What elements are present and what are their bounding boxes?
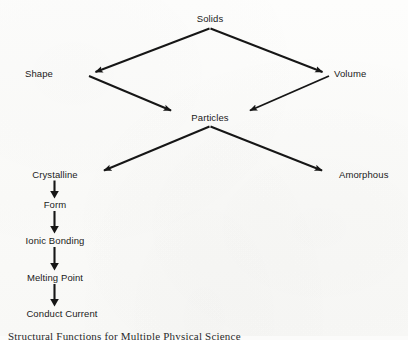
node-form[interactable]: Form (44, 200, 67, 210)
edge-particles-to-crystalline (104, 127, 210, 171)
figure-caption: Structural Functions for Multiple Physic… (8, 330, 241, 340)
node-particles[interactable]: Particles (191, 113, 228, 123)
edge-shape-to-particles (89, 76, 171, 111)
node-shape[interactable]: Shape (25, 69, 53, 79)
node-volume[interactable]: Volume (334, 69, 366, 79)
node-conduct-current[interactable]: Conduct Current (26, 309, 97, 319)
node-amorphous[interactable]: Amorphous (339, 170, 388, 180)
node-ionic-bonding[interactable]: Ionic Bonding (26, 236, 85, 246)
edge-crystalline-to-form (50, 181, 59, 199)
edge-form-to-ionic-bonding (50, 211, 59, 234)
edge-particles-to-amorphous (211, 127, 323, 171)
edge-solids-to-volume (211, 29, 323, 73)
edge-solids-to-shape (96, 29, 210, 73)
node-crystalline[interactable]: Crystalline (32, 170, 77, 180)
edge-ionic-bonding-to-melting-point (50, 247, 59, 271)
edge-melting-point-to-conduct-current (50, 284, 59, 307)
edge-volume-to-particles (250, 76, 329, 111)
node-melting-point[interactable]: Melting Point (27, 273, 83, 283)
node-solids[interactable]: Solids (197, 14, 223, 24)
